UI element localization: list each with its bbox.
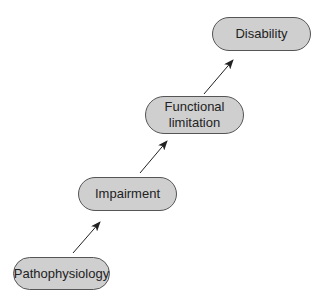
node-label: Pathophysiology — [14, 266, 109, 282]
node-impairment: Impairment — [78, 177, 177, 211]
node-disability: Disability — [212, 17, 311, 51]
node-pathophysiology: Pathophysiology — [13, 257, 110, 290]
arrow-functional-limitation-to-disability — [204, 60, 233, 94]
node-label-line1: Functional — [165, 99, 225, 115]
node-label-line2: limitation — [169, 115, 220, 131]
node-functional-limitation: Functional limitation — [145, 96, 244, 134]
node-label: Impairment — [95, 186, 160, 202]
arrow-pathophysiology-to-impairment — [73, 222, 100, 253]
node-label: Disability — [235, 26, 287, 42]
arrow-impairment-to-functional-limitation — [140, 141, 167, 173]
